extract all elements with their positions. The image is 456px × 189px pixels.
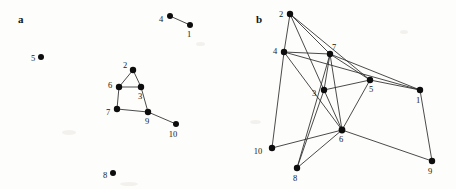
- graph-edge-7-6: [330, 54, 342, 130]
- graph-edge-6-9: [342, 130, 432, 161]
- graph-node-8: [294, 165, 300, 171]
- graph-node-label-5: 5: [369, 84, 373, 94]
- panel-b-graph: 24735161089: [228, 0, 456, 189]
- graph-edge-7-1: [330, 54, 420, 90]
- graph-node-6: [116, 84, 122, 90]
- graph-node-label-10: 10: [169, 129, 178, 139]
- graph-edge-3-5: [324, 80, 370, 90]
- graph-edge-4-1: [170, 16, 190, 25]
- figure-container: a 41526379108 b 24735161089: [0, 0, 456, 189]
- graph-node-label-9: 9: [428, 166, 432, 176]
- graph-node-label-4: 4: [159, 14, 164, 24]
- graph-node-7: [114, 106, 120, 112]
- graph-node-9: [429, 158, 435, 164]
- graph-node-2: [130, 67, 136, 73]
- graph-edge-6-7: [117, 87, 119, 109]
- graph-node-label-1: 1: [187, 29, 191, 39]
- graph-node-label-10: 10: [254, 146, 263, 156]
- graph-node-4: [281, 49, 287, 55]
- graph-node-10: [173, 121, 179, 127]
- graph-node-4: [167, 13, 173, 19]
- graph-node-1: [187, 22, 193, 28]
- graph-edge-7-8: [297, 54, 330, 168]
- graph-node-label-2: 2: [123, 60, 127, 70]
- panel-b: b 24735161089: [228, 0, 456, 189]
- graph-node-label-1: 1: [416, 95, 420, 105]
- graph-edge-2-5: [290, 14, 370, 80]
- panel-a-graph: 41526379108: [0, 0, 228, 189]
- graph-edge-1-9: [420, 90, 432, 161]
- graph-node-label-8: 8: [103, 170, 107, 180]
- graph-node-label-7: 7: [106, 107, 110, 117]
- graph-node-label-4: 4: [273, 46, 278, 56]
- graph-node-3: [138, 84, 144, 90]
- graph-edge-7-9: [117, 109, 148, 112]
- graph-edge-7-5: [330, 54, 370, 80]
- graph-node-label-3: 3: [138, 91, 142, 101]
- graph-node-6: [339, 127, 346, 134]
- graph-node-2: [287, 11, 293, 17]
- graph-node-8: [110, 170, 116, 176]
- graph-node-1: [417, 87, 423, 93]
- graph-node-label-7: 7: [332, 42, 336, 52]
- graph-edge-5-1: [370, 80, 420, 90]
- graph-edge-2-3: [290, 14, 324, 90]
- graph-edge-5-6: [342, 80, 370, 130]
- graph-edge-9-10: [148, 112, 176, 124]
- graph-node-5: [367, 77, 373, 83]
- graph-edge-4-10: [272, 52, 284, 148]
- graph-edge-2-6: [119, 70, 133, 87]
- graph-node-3: [321, 87, 327, 93]
- graph-node-label-2: 2: [279, 9, 283, 19]
- graph-node-9: [145, 109, 151, 115]
- graph-node-label-3: 3: [312, 88, 316, 98]
- graph-node-label-6: 6: [108, 80, 112, 90]
- graph-node-label-8: 8: [293, 173, 297, 183]
- graph-node-label-9: 9: [145, 116, 149, 126]
- graph-node-10: [269, 145, 275, 151]
- graph-node-5: [38, 54, 44, 60]
- panel-a: a 41526379108: [0, 0, 228, 189]
- graph-edge-2-4: [284, 14, 290, 52]
- graph-edge-2-7: [290, 14, 330, 54]
- graph-node-label-6: 6: [339, 134, 343, 144]
- graph-node-label-5: 5: [31, 53, 35, 63]
